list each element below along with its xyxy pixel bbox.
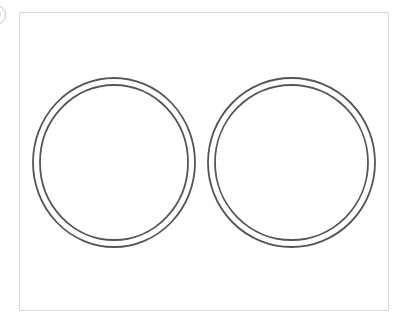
left-ring-inner-circle (40, 85, 188, 240)
diagram-canvas (0, 0, 410, 321)
left-ring-outer-circle (33, 78, 195, 247)
right-ring-outer-circle (208, 78, 375, 247)
right-ring-inner-circle (215, 85, 368, 240)
right-ring (208, 78, 375, 247)
left-ring (33, 78, 195, 247)
